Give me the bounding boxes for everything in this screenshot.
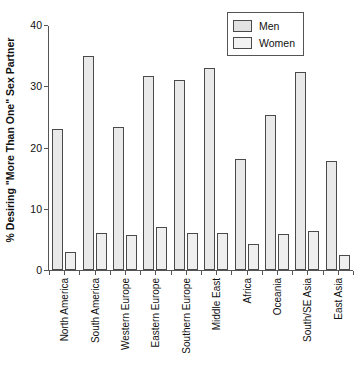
x-tick-mark [95,271,96,275]
x-category-label: South America [88,278,102,366]
y-tick-mark [44,209,48,210]
x-tick-mark [307,271,308,275]
bar-men[interactable] [235,159,246,270]
x-tick-mark-boundary [171,271,172,275]
legend-label-women: Women [259,37,295,49]
x-category-label-text: Africa [241,278,252,304]
bar-men[interactable] [174,80,185,270]
x-tick-mark-boundary [323,271,324,275]
y-tick-label: 0 [20,264,42,276]
bar-group [140,20,170,270]
x-category-label-text: South/SE Asia [302,278,313,342]
bar-women[interactable] [248,244,259,270]
y-axis-tick-labels: 010203040 [18,0,42,371]
bar-men[interactable] [295,72,306,270]
x-tick-mark [155,271,156,275]
x-category-label-text: Oceania [272,278,283,315]
y-axis-title: % Desiring "More Than One" Sex Partner [0,0,20,280]
x-tick-mark-boundary [140,271,141,275]
bar-group [231,20,261,270]
bar-group [323,20,353,270]
x-tick-mark [247,271,248,275]
bar-men[interactable] [204,68,215,270]
x-category-label: Western Europe [118,278,132,366]
legend-item-women: Women [233,34,295,51]
x-tick-mark-boundary [79,271,80,275]
x-category-label-text: Western Europe [120,278,131,350]
bar-women[interactable] [156,227,167,270]
x-tick-mark-boundary [49,271,50,275]
bar-women[interactable] [339,255,350,270]
x-category-label: Africa [240,278,254,366]
plot-area [49,20,353,270]
bar-men[interactable] [113,127,124,270]
x-tick-mark [216,271,217,275]
x-category-label: Eastern Europe [148,278,162,366]
x-category-label: Middle East [209,278,223,366]
bar-men[interactable] [326,161,337,270]
x-category-label-text: Middle East [211,278,222,330]
x-tick-mark-boundary [292,271,293,275]
bar-group [262,20,292,270]
legend-swatch-men-icon [233,20,252,32]
x-tick-mark [64,271,65,275]
bar-men[interactable] [83,56,94,270]
bar-group [110,20,140,270]
bar-women[interactable] [126,235,137,270]
y-axis-title-text: % Desiring "More Than One" Sex Partner [4,38,16,243]
bar-chart-figure: % Desiring "More Than One" Sex Partner 0… [0,0,362,371]
y-tick-mark [44,25,48,26]
x-tick-mark-boundary [262,271,263,275]
x-category-label-text: Eastern Europe [150,278,161,348]
x-tick-mark [338,271,339,275]
x-category-label-text: South America [89,278,100,343]
y-tick-label: 10 [20,203,42,215]
y-tick-label: 40 [20,19,42,31]
bar-group [201,20,231,270]
x-tick-mark [125,271,126,275]
legend-swatch-women-icon [233,37,252,49]
bar-men[interactable] [52,129,63,270]
bar-men[interactable] [143,76,154,270]
x-tick-mark-boundary [201,271,202,275]
bar-women[interactable] [278,234,289,270]
x-tick-mark [186,271,187,275]
y-tick-label: 30 [20,80,42,92]
x-tick-mark-boundary [353,271,354,275]
bar-women[interactable] [308,231,319,270]
y-tick-label: 20 [20,142,42,154]
bar-women[interactable] [65,252,76,270]
x-category-label-text: East Asia [332,278,343,320]
bar-women[interactable] [187,233,198,270]
chart-legend: Men Women [227,12,304,56]
bar-men[interactable] [265,115,276,270]
x-tick-mark-boundary [110,271,111,275]
y-tick-mark [44,270,48,271]
x-category-label-text: Southern Europe [180,278,191,354]
bar-group [171,20,201,270]
x-category-label: East Asia [331,278,345,366]
y-tick-mark [44,86,48,87]
x-category-label: Southern Europe [179,278,193,366]
x-tick-mark-boundary [231,271,232,275]
x-category-label: North America [57,278,71,366]
x-category-label: Oceania [270,278,284,366]
x-category-label: South/SE Asia [300,278,314,366]
legend-item-men: Men [233,17,295,34]
y-tick-mark [44,148,48,149]
bar-women[interactable] [96,233,107,270]
bar-group [292,20,322,270]
bar-women[interactable] [217,233,228,270]
x-tick-mark [277,271,278,275]
x-category-label-text: North America [59,278,70,341]
bar-group [49,20,79,270]
bar-group [79,20,109,270]
legend-label-men: Men [259,20,279,32]
